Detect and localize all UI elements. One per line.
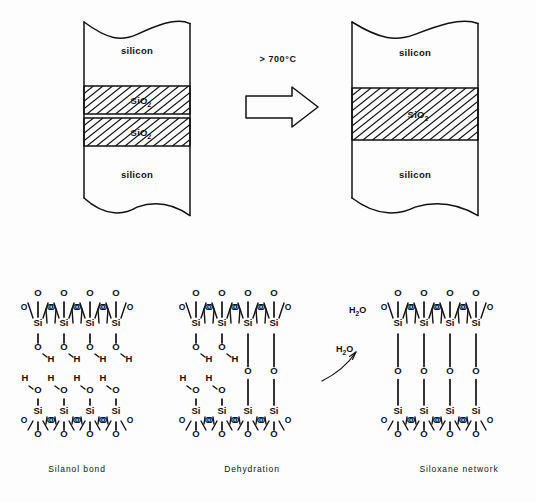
bond-line [458, 309, 459, 323]
bond-line [239, 309, 240, 323]
label-text: Si [34, 405, 43, 416]
label-text: O [244, 287, 251, 298]
label-text: O [47, 415, 54, 425]
bond-line [467, 417, 468, 424]
label-text: O [112, 287, 119, 298]
label-text: O [86, 287, 93, 298]
wafer-bottom-edge [352, 198, 478, 216]
bond-line [121, 421, 126, 430]
label-text: O [472, 365, 479, 376]
label-text: O [231, 302, 238, 312]
label-text: O [407, 415, 414, 425]
label-text: O [127, 415, 134, 425]
bond-line [256, 309, 257, 323]
label-text: O [192, 384, 199, 395]
label-text: O [99, 302, 106, 312]
bond-line [43, 354, 47, 357]
label-text: Si [270, 317, 279, 328]
bond-line [441, 417, 442, 424]
bond-line [227, 354, 231, 357]
label-text: O [381, 302, 388, 312]
label-text: H [180, 372, 187, 383]
bond-line [28, 421, 33, 430]
bond-line [432, 309, 433, 323]
label-text: O [60, 341, 67, 352]
label-text: O [218, 428, 225, 439]
label-text: H [100, 353, 107, 364]
bond-line [46, 417, 47, 424]
bond-line [187, 386, 191, 389]
label-text: H [22, 372, 29, 383]
water-label: H2O [349, 305, 366, 317]
label-text: O [257, 302, 264, 312]
bond-line [279, 421, 284, 430]
molecular-scheme: OOOSiOOOSiOOOSiOOOSiOOOSiOOOSiOOOSiOOOSi… [381, 287, 494, 439]
label-text: O [446, 287, 453, 298]
label-text: Si [394, 317, 403, 328]
label-text: O [218, 287, 225, 298]
wafer-bottom-edge [84, 198, 190, 216]
sio2-label: SiO2 [131, 127, 152, 140]
label-text: O [244, 365, 251, 376]
label-text: O [218, 341, 225, 352]
label-text: Si [112, 317, 121, 328]
bond-line [230, 309, 231, 323]
label-text: O [433, 302, 440, 312]
label-text: silicon [399, 47, 431, 58]
label-text: O [127, 302, 134, 312]
label-text: Si [472, 317, 481, 328]
label-text: Si [218, 317, 227, 328]
bond-line [256, 417, 257, 424]
label-text: O [270, 365, 277, 376]
bond-line [213, 417, 214, 424]
bond-line [28, 303, 33, 318]
label-text: O [257, 415, 264, 425]
label-text: O [86, 341, 93, 352]
label-text: O [179, 415, 186, 425]
label-text: O [433, 415, 440, 425]
bond-line [458, 417, 459, 424]
label-text: O [86, 384, 93, 395]
label-text: O [407, 302, 414, 312]
bond-line [467, 309, 468, 323]
top-panel [21, 21, 536, 215]
label-text: Si [244, 317, 253, 328]
label-text: H [206, 353, 213, 364]
right-block-arrow-icon [246, 87, 318, 127]
label-text: Si [112, 405, 121, 416]
bond-line [98, 309, 99, 323]
label-text: O [487, 415, 494, 425]
bond-line [81, 417, 82, 424]
bond-line [265, 417, 266, 424]
bond-line [406, 417, 407, 424]
bond-line [415, 417, 416, 424]
label-text: Si [192, 317, 201, 328]
label-text: > 700°C [259, 54, 296, 64]
bond-line [107, 386, 111, 389]
label-text: O [285, 302, 292, 312]
label-text: H [126, 353, 133, 364]
water-label: H2O [336, 344, 353, 356]
label-text: Si [394, 405, 403, 416]
label-text: Si [60, 317, 69, 328]
label-text: Si [420, 405, 429, 416]
label-text: O [34, 428, 41, 439]
label-text: O [446, 365, 453, 376]
bottom-panel: OOOSiOOOSiOOOSiOOOSiOOOSiOOOSiOOOSiOOOSi… [21, 287, 494, 439]
label-text: O [394, 428, 401, 439]
label-text: O [21, 302, 28, 312]
bond-line [432, 417, 433, 424]
label-text: O [34, 341, 41, 352]
label-text: O [487, 302, 494, 312]
label-text: O [270, 287, 277, 298]
sio2-label: SiO2 [408, 109, 429, 122]
label-text: O [99, 415, 106, 425]
figure-canvas: OOOSiOOOSiOOOSiOOOSiOOOSiOOOSiOOOSiOOOSi… [0, 0, 536, 502]
bond-line [388, 421, 393, 430]
wafer-group [259, 21, 536, 215]
bond-line [72, 417, 73, 424]
label-text: O [270, 428, 277, 439]
bond-line [213, 386, 217, 389]
bond-line [441, 309, 442, 323]
label-text: H [74, 353, 81, 364]
